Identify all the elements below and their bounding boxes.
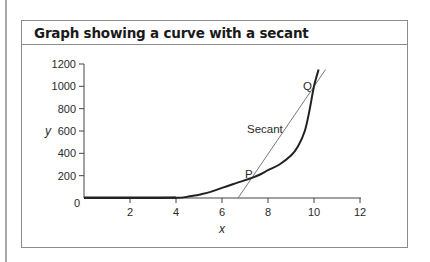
y-tick-label: 200 [58, 170, 76, 182]
x-tick-label: 10 [308, 206, 320, 218]
secant-label: Secant [247, 123, 284, 135]
origin-label: 0 [74, 197, 80, 209]
x-tick-label: 12 [354, 206, 366, 218]
curve-line [84, 70, 319, 198]
y-tick-label: 800 [58, 103, 76, 115]
point-p-label: P [245, 168, 253, 180]
y-tick-label: 1200 [52, 58, 76, 70]
y-tick-label: 400 [58, 147, 76, 159]
y-tick-label: 1000 [52, 80, 76, 92]
x-tick-label: 4 [173, 206, 179, 218]
y-ticks: 20040060080010001200 [52, 58, 84, 182]
chart-area: 20040060080010001200 24681012 0 y x P Q … [0, 0, 430, 262]
x-ticks: 24681012 [127, 198, 366, 218]
x-tick-label: 6 [219, 206, 225, 218]
x-axis-title: x [218, 222, 226, 236]
x-tick-label: 8 [265, 206, 271, 218]
y-tick-label: 600 [58, 125, 76, 137]
x-tick-label: 2 [127, 206, 133, 218]
y-axis-title: y [44, 124, 52, 138]
point-q-label: Q [303, 80, 312, 92]
